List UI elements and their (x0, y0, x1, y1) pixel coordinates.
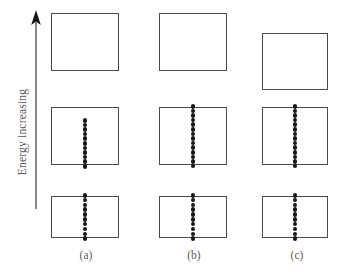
electron-dot (83, 164, 88, 169)
electron-dots-c-core-band (292, 193, 298, 241)
electron-dot (83, 217, 88, 222)
electron-dot (191, 217, 196, 222)
electron-dot (293, 150, 298, 155)
electron-dot (83, 198, 88, 203)
electron-dot (293, 164, 298, 169)
electron-dot (83, 118, 88, 123)
column-caption-a: (a) (66, 249, 106, 261)
energy-band-figure: Energy increasing (a)(b)(c) (0, 0, 345, 275)
electron-dot (83, 222, 88, 227)
electron-dots-b-valence-band (190, 104, 196, 168)
electron-dots-a-core-band (82, 193, 88, 241)
band-box-b-conduction-band (159, 13, 227, 71)
electron-dot (191, 236, 196, 241)
electron-dots-b-core-band (190, 193, 196, 241)
electron-dot (191, 193, 196, 198)
electron-dot (83, 227, 88, 232)
energy-axis-label: Energy increasing (16, 89, 28, 176)
column-caption-c: (c) (277, 249, 317, 261)
electron-dot (293, 127, 298, 132)
band-box-a-conduction-band (51, 13, 119, 71)
electron-dot (191, 127, 196, 132)
electron-dot (191, 150, 196, 155)
electron-dot (293, 193, 298, 198)
electron-dot (293, 227, 298, 232)
electron-dot (191, 198, 196, 203)
electron-dot (293, 104, 298, 109)
electron-dot (83, 236, 88, 241)
electron-dot (293, 198, 298, 203)
electron-dots-c-valence-band (292, 104, 298, 168)
electron-dot (293, 217, 298, 222)
band-box-c-conduction-band (262, 33, 328, 90)
electron-dot (83, 141, 88, 146)
electron-dot (293, 236, 298, 241)
electron-dot (191, 227, 196, 232)
column-caption-b: (b) (174, 249, 214, 261)
electron-dot (83, 193, 88, 198)
electron-dot (191, 104, 196, 109)
electron-dots-a-valence-band (82, 118, 88, 165)
electron-dot (191, 222, 196, 227)
electron-dot (293, 222, 298, 227)
electron-dot (191, 164, 196, 169)
